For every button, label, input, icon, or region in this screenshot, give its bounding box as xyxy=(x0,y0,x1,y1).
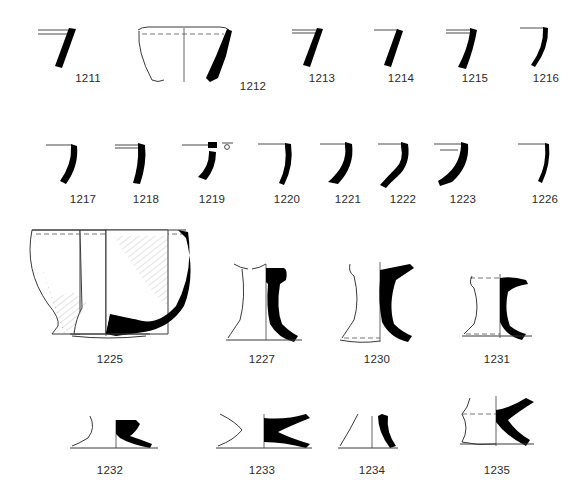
figure-label-1219: 1219 xyxy=(199,193,225,205)
figure-1235 xyxy=(448,396,546,456)
figure-1216 xyxy=(518,22,570,72)
figure-label-1227: 1227 xyxy=(249,353,275,365)
figure-label-1225: 1225 xyxy=(97,353,123,365)
figure-1217 xyxy=(44,140,98,188)
figure-1214 xyxy=(372,24,426,72)
figure-label-1234: 1234 xyxy=(359,464,385,476)
figure-1230 xyxy=(336,258,424,352)
figure-label-1211: 1211 xyxy=(75,72,101,84)
figure-label-1215: 1215 xyxy=(462,72,488,84)
figure-label-1230: 1230 xyxy=(364,353,390,365)
figure-1211 xyxy=(36,22,100,72)
figure-1221 xyxy=(318,138,376,190)
figure-1234 xyxy=(330,410,412,458)
figure-1219 xyxy=(180,138,242,188)
figure-1231 xyxy=(456,268,542,348)
figure-label-1213: 1213 xyxy=(309,72,335,84)
figure-1222 xyxy=(376,138,432,192)
figure-label-1232: 1232 xyxy=(97,464,123,476)
pottery-profile-plate: 1211 1212 1213 1214 1215 1216 1217 1218 … xyxy=(0,0,586,501)
figure-label-1223: 1223 xyxy=(450,193,476,205)
figure-label-1231: 1231 xyxy=(484,353,510,365)
figure-label-1221: 1221 xyxy=(335,193,361,205)
figure-1225 xyxy=(18,222,200,350)
figure-1223 xyxy=(430,136,492,192)
figure-1213 xyxy=(290,22,348,72)
figure-label-1217: 1217 xyxy=(70,193,96,205)
figure-label-1220: 1220 xyxy=(274,193,300,205)
figure-1212 xyxy=(128,22,240,84)
figure-1227 xyxy=(222,258,308,350)
figure-1218 xyxy=(113,140,165,188)
figure-label-1214: 1214 xyxy=(388,72,414,84)
figure-1215 xyxy=(444,22,500,74)
figure-1226 xyxy=(516,138,570,188)
figure-1220 xyxy=(256,138,314,190)
figure-label-1218: 1218 xyxy=(133,193,159,205)
figure-label-1212: 1212 xyxy=(240,80,266,92)
figure-label-1222: 1222 xyxy=(390,193,416,205)
figure-label-1216: 1216 xyxy=(533,72,559,84)
figure-label-1235: 1235 xyxy=(484,464,510,476)
figure-1232 xyxy=(68,412,164,456)
figure-label-1226: 1226 xyxy=(532,193,558,205)
figure-label-1233: 1233 xyxy=(249,464,275,476)
figure-1233 xyxy=(212,410,316,458)
